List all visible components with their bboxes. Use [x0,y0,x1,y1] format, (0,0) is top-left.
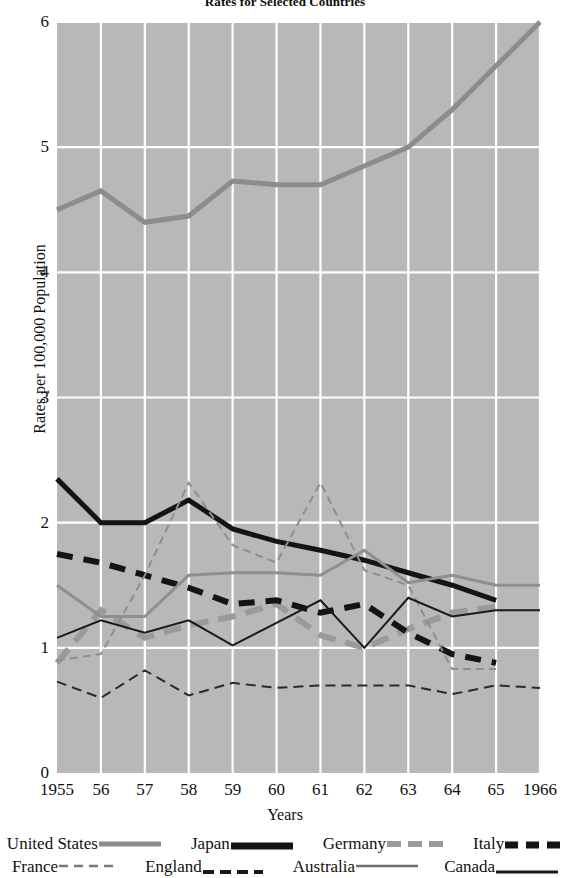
x-tick-label: 61 [312,781,329,798]
legend-line-swatch [387,837,445,851]
x-axis-title: Years [0,806,570,824]
legend-item-canada[interactable]: Canada [444,857,558,877]
legend-line-swatch [59,860,115,874]
legend-line-swatch [496,860,558,874]
x-tick-label: 57 [136,781,153,798]
x-tick-label: 59 [224,781,241,798]
legend-label: Germany [323,834,386,854]
plot-area: Rates per 100,000 Population 0123456 195… [0,0,570,800]
legend-line-swatch [505,837,563,851]
x-tick-label: 62 [356,781,373,798]
legend-item-italy[interactable]: Italy [473,834,563,854]
chart-legend: United StatesJapanGermanyItaly FranceEng… [0,832,570,878]
legend-item-england[interactable]: England [145,857,263,877]
legend-line-swatch [231,837,293,851]
y-tick-label: 5 [9,138,49,155]
x-tick-label: 1966 [523,781,557,798]
legend-item-japan[interactable]: Japan [191,834,293,854]
legend-row-1: United StatesJapanGermanyItaly [0,832,570,855]
legend-line-swatch [356,860,418,874]
line-chart-canvas [0,0,570,800]
y-tick-label: 1 [9,639,49,656]
y-tick-label: 0 [9,764,49,781]
x-tick-label: 63 [400,781,417,798]
y-axis-title: Rates per 100,000 Population [31,189,49,489]
legend-line-swatch [203,860,263,874]
legend-item-united-states[interactable]: United States [7,834,161,854]
x-tick-label: 60 [268,781,285,798]
legend-label: United States [7,834,98,854]
legend-row-2: FranceEnglandAustraliaCanada [0,855,570,878]
x-tick-label: 1955 [40,781,74,798]
legend-label: Canada [444,857,495,877]
y-tick-label: 3 [9,389,49,406]
legend-item-germany[interactable]: Germany [323,834,445,854]
legend-item-france[interactable]: France [12,857,115,877]
x-tick-label: 58 [180,781,197,798]
legend-label: Japan [191,834,230,854]
y-tick-label: 4 [9,263,49,280]
legend-label: France [12,857,58,877]
x-tick-label: 64 [444,781,461,798]
x-tick-label: 65 [488,781,505,798]
legend-label: Australia [293,857,355,877]
x-tick-label: 56 [92,781,109,798]
legend-label: Italy [473,834,504,854]
legend-line-swatch [99,837,161,851]
legend-label: England [145,857,202,877]
legend-item-australia[interactable]: Australia [293,857,418,877]
y-tick-label: 2 [9,514,49,531]
y-tick-label: 6 [9,13,49,30]
